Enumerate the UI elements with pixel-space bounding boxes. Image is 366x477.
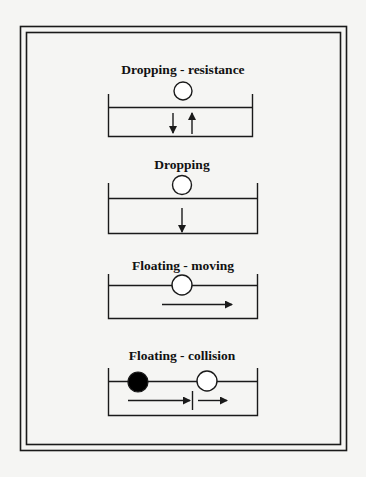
tank [109, 94, 253, 137]
panel-floating-moving: Floating - moving [109, 258, 258, 319]
panel-dropping-resistance: Dropping - resistance [109, 62, 253, 137]
hollow-ball-icon [174, 82, 192, 100]
panel-floating-collision: Floating - collision [109, 348, 258, 416]
filled-ball-icon [128, 372, 148, 392]
diagram-canvas: Dropping - resistance Dropping Floating … [0, 0, 366, 477]
panel-title: Floating - moving [132, 258, 234, 273]
panel-dropping: Dropping [109, 157, 258, 234]
panel-title: Dropping [154, 157, 210, 172]
hollow-ball-icon [173, 176, 192, 195]
ball-in-water-diagram: Dropping - resistance Dropping Floating … [0, 0, 366, 477]
panel-title: Dropping - resistance [121, 62, 244, 77]
panel-title: Floating - collision [129, 348, 236, 363]
hollow-ball-icon [197, 371, 217, 391]
hollow-ball-icon [172, 275, 192, 295]
